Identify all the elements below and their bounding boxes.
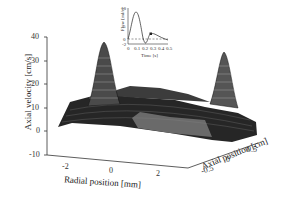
inset-x-tick: 0.3 — [150, 46, 156, 51]
inset-x-tick: 0.5 — [166, 46, 172, 51]
inset-x-tick: 0 — [127, 46, 130, 51]
z-tick: 0 — [36, 126, 40, 135]
inset-y-tick: -2 — [122, 42, 126, 47]
z-tick: -10 — [29, 150, 40, 159]
x-tick: -2 — [62, 162, 69, 171]
z-axis-label: Axial velocity [cm/s] — [23, 42, 33, 142]
inset-x-tick: 0.1 — [134, 46, 140, 51]
x-tick: 2 — [156, 169, 160, 178]
inset-y-label: Flow [ml/s] — [120, 8, 125, 31]
x-tick: 0 — [109, 166, 113, 175]
surface-plot — [0, 0, 286, 202]
inset-x-tick: 0.2 — [142, 46, 148, 51]
z-tick: 40 — [31, 32, 39, 41]
inset-x-tick: 0.4 — [158, 46, 164, 51]
inset-x-label: Time [s] — [141, 53, 158, 58]
